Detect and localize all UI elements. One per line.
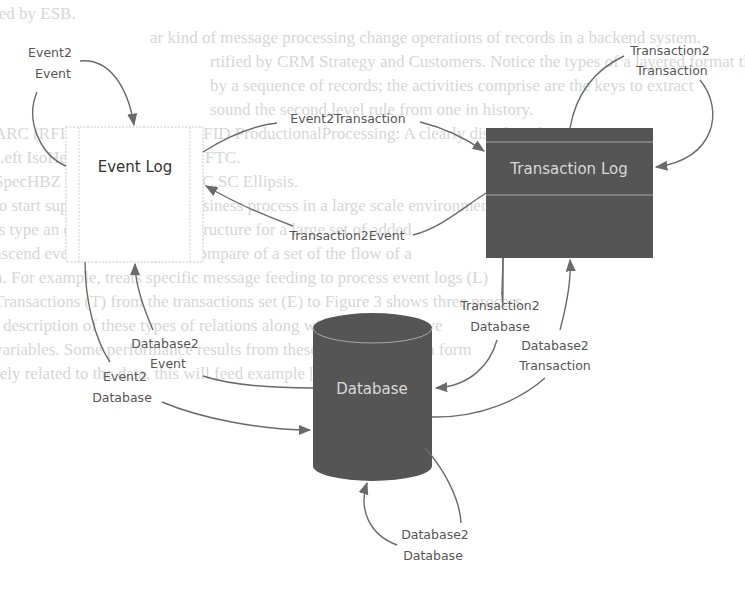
edge-label: Event <box>150 356 186 371</box>
edge-database2event: Database2 Event <box>131 264 313 388</box>
edge-label: Transaction2Event <box>288 228 404 243</box>
edge-label: Transaction2 <box>459 298 539 313</box>
transaction-log-label: Transaction Log <box>509 160 627 178</box>
edge-label: Transaction2 <box>629 43 709 58</box>
edge-label: Transaction <box>635 63 708 78</box>
edge-label: Transaction <box>518 358 591 373</box>
edge-label: Event2 <box>28 45 72 60</box>
process-flow-diagram: Event Log Transaction Log Database Event… <box>0 0 745 597</box>
edge-event2transaction: Event2Transaction <box>203 111 484 152</box>
edge-label: Database2 <box>521 338 589 353</box>
edge-label: Event <box>35 66 71 81</box>
database-label: Database <box>336 380 408 398</box>
node-event-log[interactable]: Event Log <box>66 127 203 262</box>
event-log-label: Event Log <box>98 158 173 176</box>
edge-label: Event2 <box>103 369 147 384</box>
edge-transaction2event: Transaction2Event <box>206 186 486 243</box>
edge-label: Database2 <box>401 527 469 542</box>
node-transaction-log[interactable]: Transaction Log <box>486 128 653 258</box>
edge-database2transaction: Database2 Transaction <box>432 260 591 417</box>
edge-label: Database2 <box>131 336 199 351</box>
edge-label: Event2Transaction <box>290 111 405 126</box>
node-database[interactable]: Database <box>313 313 432 481</box>
edge-label: Database <box>92 390 152 405</box>
edge-label: Database <box>403 548 463 563</box>
edge-label: Database <box>470 319 530 334</box>
